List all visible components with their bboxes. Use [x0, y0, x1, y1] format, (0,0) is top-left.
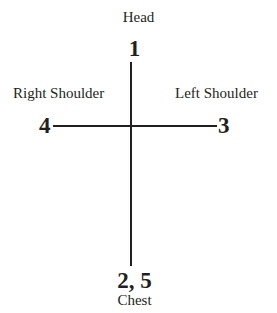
- lead-placement-diagram: Head 1 Right Shoulder 4 Left Shoulder 3 …: [0, 0, 277, 313]
- head-label: Head: [0, 10, 277, 25]
- right-shoulder-label: Right Shoulder: [13, 86, 104, 101]
- chest-label: Chest: [0, 293, 273, 308]
- vertical-axis-line: [130, 62, 132, 266]
- left-shoulder-label: Left Shoulder: [175, 86, 258, 101]
- left-shoulder-number: 3: [218, 114, 230, 137]
- head-number: 1: [0, 37, 273, 60]
- horizontal-axis-line: [53, 125, 217, 127]
- right-shoulder-number: 4: [39, 114, 51, 137]
- chest-number: 2, 5: [0, 269, 273, 292]
